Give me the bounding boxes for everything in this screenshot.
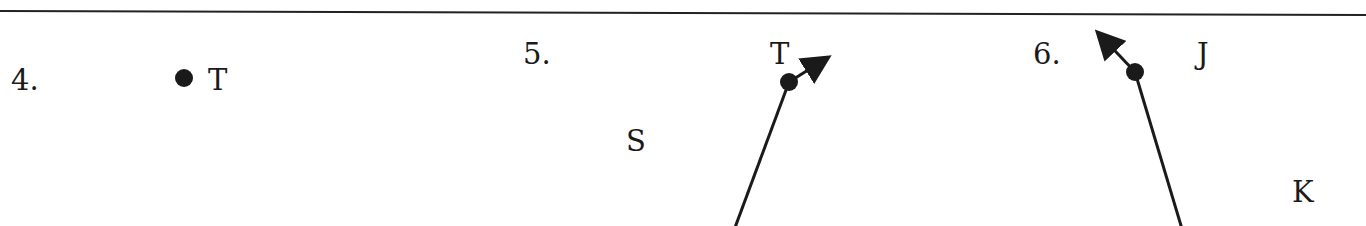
problem-number-6: 6. (1033, 40, 1061, 69)
point-t-problem-5 (780, 73, 798, 91)
label-s-problem-5: S (626, 127, 646, 156)
ray-kj (1101, 36, 1268, 226)
label-t-problem-4: T (208, 66, 227, 95)
point-j-problem-6 (1126, 63, 1144, 81)
point-t-problem-4 (175, 69, 193, 87)
label-j-problem-6: J (1197, 40, 1209, 69)
label-t-problem-5: T (770, 40, 789, 69)
problem-number-4: 4. (11, 66, 39, 95)
top-divider-rule (0, 11, 1366, 15)
worksheet-figures (0, 0, 1366, 226)
label-k-problem-6: K (1292, 178, 1314, 207)
problem-number-5: 5. (523, 40, 551, 69)
